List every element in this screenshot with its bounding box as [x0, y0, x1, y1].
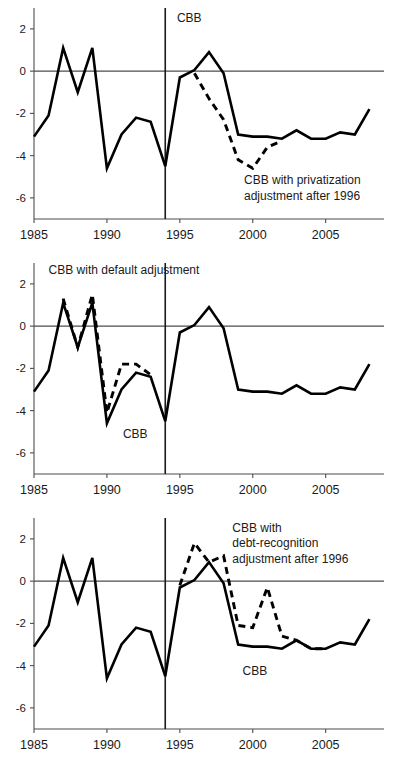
series-line-solid: [34, 48, 369, 168]
x-tick-label: 2000: [239, 228, 267, 242]
y-tick-label: 2: [20, 23, 26, 35]
y-tick-label: -2: [16, 107, 26, 119]
y-tick-label: 2: [20, 533, 26, 545]
y-tick-label: -6: [16, 192, 26, 204]
x-tick-label: 2005: [312, 483, 340, 497]
x-tick-label: 1995: [166, 738, 194, 752]
chart-svg-top: 20-2-4-619851990199520002005CBBCBB with …: [0, 0, 393, 255]
chart-annotation-label: debt-recognition: [232, 536, 318, 550]
y-tick-label: 2: [20, 278, 26, 290]
x-tick-label: 2000: [239, 738, 267, 752]
chart-panel-bottom: 20-2-4-619851990199520002005CBB withdebt…: [0, 510, 393, 765]
chart-annotation-label: CBB with privatization: [244, 173, 361, 187]
y-tick-label: -4: [16, 150, 27, 162]
y-tick-label: 0: [20, 320, 26, 332]
y-tick-label: -2: [16, 617, 26, 629]
figure-cbb-panels: 20-2-4-619851990199520002005CBBCBB with …: [0, 0, 393, 765]
x-tick-label: 1985: [20, 483, 48, 497]
chart-svg-bottom: 20-2-4-619851990199520002005CBB withdebt…: [0, 510, 393, 765]
chart-panel-middle: 20-2-4-619851990199520002005CBB with def…: [0, 255, 393, 510]
x-tick-label: 2005: [312, 228, 340, 242]
x-tick-label: 2005: [312, 738, 340, 752]
x-tick-label: 2000: [239, 483, 267, 497]
chart-annotation-label: CBB: [243, 664, 268, 678]
x-tick-label: 1990: [93, 483, 121, 497]
y-tick-label: -4: [16, 660, 27, 672]
chart-annotation-label: CBB: [123, 427, 148, 441]
y-tick-label: 0: [20, 575, 26, 587]
y-tick-label: -4: [16, 405, 27, 417]
x-tick-label: 1990: [93, 738, 121, 752]
series-line-solid: [34, 558, 369, 678]
x-tick-label: 1985: [20, 228, 48, 242]
chart-annotation-label: CBB with default adjustment: [49, 263, 200, 277]
x-tick-label: 1995: [166, 228, 194, 242]
y-tick-label: 0: [20, 65, 26, 77]
y-tick-label: -2: [16, 362, 26, 374]
y-tick-label: -6: [16, 702, 26, 714]
chart-annotation-label: adjustment after 1996: [232, 552, 348, 566]
series-line-dashed: [63, 294, 151, 412]
chart-panel-top: 20-2-4-619851990199520002005CBBCBB with …: [0, 0, 393, 255]
chart-svg-middle: 20-2-4-619851990199520002005CBB with def…: [0, 255, 393, 510]
x-tick-label: 1985: [20, 738, 48, 752]
x-tick-label: 1990: [93, 228, 121, 242]
chart-annotation-label: CBB with: [232, 521, 281, 535]
chart-annotation-label: adjustment after 1996: [244, 189, 360, 203]
x-tick-label: 1995: [166, 483, 194, 497]
y-tick-label: -6: [16, 447, 26, 459]
series-line-dashed: [194, 73, 282, 168]
chart-annotation-label: CBB: [177, 11, 202, 25]
